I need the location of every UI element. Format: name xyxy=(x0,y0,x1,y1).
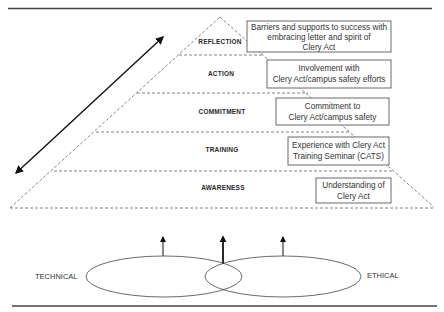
svg-text:Training Seminar (CATS): Training Seminar (CATS) xyxy=(293,152,384,161)
description-box-reflection: Barriers and supports to success with em… xyxy=(247,21,391,52)
layer-label-awareness: AWARENESS xyxy=(201,184,245,191)
layer-label-reflection: REFLECTION xyxy=(198,38,242,45)
layer-label-action: ACTION xyxy=(208,70,234,77)
double-headed-arrow-icon xyxy=(16,37,163,173)
ethical-ellipse xyxy=(205,256,361,297)
svg-text:Involvement with: Involvement with xyxy=(299,64,360,73)
ethical-label: ETHICAL xyxy=(367,271,399,280)
description-box-commitment: Commitment to Clery Act/campus safety xyxy=(276,98,389,125)
description-box-action: Involvement with Clery Act/campus safety… xyxy=(267,60,391,88)
layer-label-training: TRAINING xyxy=(205,146,238,153)
pyramid-left-edge xyxy=(10,17,220,208)
description-box-training: Experience with Clery Act Training Semin… xyxy=(288,137,389,165)
technical-label: TECHNICAL xyxy=(35,272,78,281)
svg-text:Experience with Clery Act: Experience with Clery Act xyxy=(292,141,386,150)
svg-text:Commitment to: Commitment to xyxy=(305,102,361,111)
svg-text:Clery Act: Clery Act xyxy=(337,192,370,201)
technical-ellipse xyxy=(86,256,242,297)
svg-text:embracing letter and spirit of: embracing letter and spirit of xyxy=(267,33,371,42)
svg-text:Barriers and supports to succe: Barriers and supports to success with xyxy=(251,23,388,32)
svg-text:Clery Act/campus safety effort: Clery Act/campus safety efforts xyxy=(273,75,386,84)
description-box-awareness: Understanding of Clery Act xyxy=(316,178,391,203)
layer-label-commitment: COMMITMENT xyxy=(199,108,246,115)
svg-text:Understanding of: Understanding of xyxy=(322,181,385,190)
diagram-canvas: REFLECTION ACTION COMMITMENT TRAINING AW… xyxy=(0,0,444,312)
svg-text:Clery Act: Clery Act xyxy=(303,43,336,52)
svg-text:Clery Act/campus safety: Clery Act/campus safety xyxy=(289,113,378,122)
